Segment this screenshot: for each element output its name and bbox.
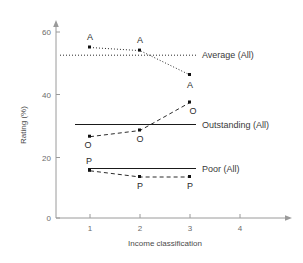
- x-axis-arrowhead: [285, 215, 292, 221]
- series-average: A A A Average (All): [60, 32, 254, 90]
- y-tick-label-20: 20: [42, 154, 51, 163]
- poor-point-label-1: P: [86, 156, 92, 166]
- average-point-label-2: A: [137, 35, 143, 45]
- poor-point-label-3: P: [187, 181, 193, 191]
- outstanding-marker-3: [188, 101, 191, 104]
- average-marker-3: [188, 73, 191, 76]
- average-marker-2: [138, 49, 141, 52]
- x-axis: 1 2 3 4 Income classification: [56, 214, 292, 248]
- outstanding-marker-1: [88, 135, 91, 138]
- y-axis-arrowhead: [53, 20, 59, 27]
- y-tick-label-60: 60: [42, 28, 51, 37]
- outstanding-point-label-1: O: [84, 140, 91, 150]
- series-poor: P P P Poor (All): [86, 156, 240, 191]
- x-tick-label-2: 2: [138, 224, 143, 233]
- x-tick-label-3: 3: [188, 224, 193, 233]
- poor-marker-2: [138, 175, 141, 178]
- outstanding-series-line: [90, 103, 190, 137]
- y-axis-title: Rating (%): [19, 106, 28, 144]
- average-marker-1: [88, 46, 91, 49]
- average-point-label-3: A: [187, 80, 193, 90]
- x-tick-label-1: 1: [88, 224, 93, 233]
- series-outstanding: O O O Outstanding (All): [75, 101, 269, 151]
- outstanding-marker-2: [138, 129, 141, 132]
- chart-figure: 0 20 40 60 Rating (%) 1 2 3 4 Income cla…: [0, 0, 303, 263]
- y-tick-label-0: 0: [47, 214, 52, 223]
- x-axis-title: Income classification: [128, 239, 202, 248]
- poor-marker-1: [88, 169, 91, 172]
- legend-label-outstanding: Outstanding (All): [202, 120, 269, 130]
- outstanding-point-label-2: O: [136, 134, 143, 144]
- y-tick-label-40: 40: [42, 91, 51, 100]
- y-axis: 0 20 40 60 Rating (%): [19, 20, 60, 223]
- legend-label-average: Average (All): [202, 50, 254, 60]
- average-point-label-1: A: [87, 32, 93, 42]
- poor-marker-3: [188, 175, 191, 178]
- poor-point-label-2: P: [137, 181, 143, 191]
- line-chart-canvas: 0 20 40 60 Rating (%) 1 2 3 4 Income cla…: [0, 0, 303, 263]
- legend-label-poor: Poor (All): [202, 164, 240, 174]
- outstanding-point-label-3: O: [189, 106, 196, 116]
- x-tick-label-4: 4: [238, 224, 243, 233]
- average-series-line: [90, 48, 190, 76]
